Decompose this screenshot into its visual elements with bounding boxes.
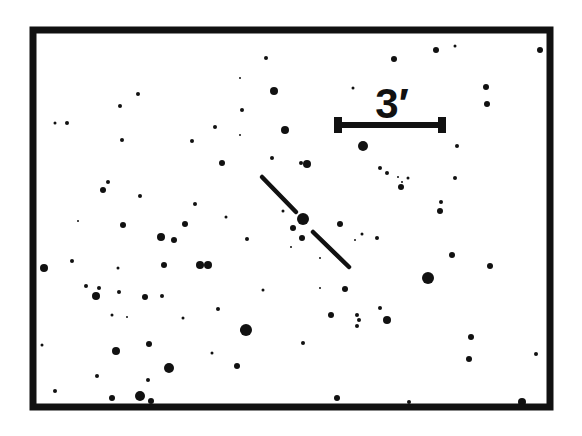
star (407, 400, 411, 404)
star (334, 395, 340, 401)
star (54, 122, 57, 125)
star (216, 307, 220, 311)
star (240, 324, 252, 336)
star (398, 184, 404, 190)
star (135, 391, 145, 401)
star (270, 156, 274, 160)
star (437, 208, 443, 214)
star (537, 47, 543, 53)
star (378, 166, 382, 170)
star (299, 235, 305, 241)
star (190, 139, 194, 143)
star (40, 264, 48, 272)
star (164, 363, 174, 373)
star (358, 141, 368, 151)
star (160, 294, 164, 298)
star (453, 176, 457, 180)
star (138, 194, 142, 198)
star (354, 239, 356, 241)
star (290, 246, 292, 248)
star (53, 389, 57, 393)
star (352, 87, 355, 90)
star (225, 216, 228, 219)
star (328, 312, 334, 318)
star (120, 138, 124, 142)
star (146, 378, 150, 382)
star (239, 134, 241, 136)
star (483, 84, 489, 90)
star (487, 263, 493, 269)
star (319, 287, 321, 289)
star (240, 108, 244, 112)
chart-background (0, 0, 582, 436)
scale-bar-left-cap (334, 117, 342, 133)
star (126, 316, 128, 318)
star (264, 56, 268, 60)
star (383, 316, 391, 324)
star (148, 398, 154, 404)
star (106, 180, 110, 184)
star (111, 314, 114, 317)
star (439, 200, 443, 204)
star (120, 222, 126, 228)
star (433, 47, 439, 53)
star (100, 187, 106, 193)
star (342, 286, 348, 292)
star (468, 334, 474, 340)
star (422, 272, 434, 284)
star (301, 341, 305, 345)
star (355, 324, 359, 328)
star (455, 144, 459, 148)
star (196, 261, 204, 269)
star (262, 289, 265, 292)
star (117, 290, 121, 294)
star (449, 252, 455, 258)
star (146, 341, 152, 347)
scale-bar-right-cap (438, 117, 446, 133)
star (219, 160, 225, 166)
star (118, 104, 122, 108)
star (109, 395, 115, 401)
star (182, 221, 188, 227)
star (70, 259, 74, 263)
star (361, 233, 364, 236)
star (303, 160, 311, 168)
star (466, 356, 472, 362)
star (41, 344, 44, 347)
star (290, 225, 296, 231)
star (299, 161, 303, 165)
star (161, 262, 167, 268)
star (95, 374, 99, 378)
star (282, 210, 285, 213)
star (77, 220, 79, 222)
star (270, 87, 278, 95)
star (213, 125, 217, 129)
star (297, 213, 309, 225)
star (239, 77, 241, 79)
star (319, 257, 321, 259)
star (112, 347, 120, 355)
scale-bar-label: 3′ (375, 80, 408, 127)
star (378, 306, 382, 310)
star (245, 237, 249, 241)
star (355, 313, 359, 317)
star (65, 121, 69, 125)
star (84, 284, 88, 288)
star (281, 126, 289, 134)
star (211, 352, 214, 355)
star (182, 317, 185, 320)
star (193, 202, 197, 206)
star (375, 236, 379, 240)
star (234, 363, 240, 369)
star (407, 177, 410, 180)
star (391, 56, 397, 62)
star (454, 45, 457, 48)
star (534, 352, 538, 356)
star (92, 292, 100, 300)
star (401, 181, 403, 183)
star (357, 318, 361, 322)
star (142, 294, 148, 300)
star (171, 237, 177, 243)
star (136, 92, 140, 96)
star (117, 267, 120, 270)
